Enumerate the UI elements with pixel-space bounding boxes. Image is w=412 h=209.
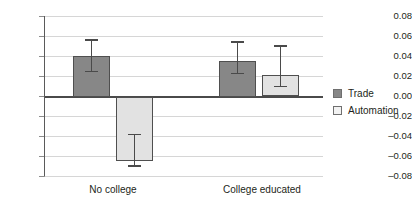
- gridline: [45, 136, 323, 137]
- y-tick-label: 0.06: [374, 31, 412, 41]
- error-bar-automation-college-educated: [262, 45, 299, 87]
- error-bar-automation-no-college: [116, 134, 153, 167]
- error-bar-stem: [237, 41, 239, 74]
- x-tick-label-college-educated: College educated: [207, 184, 317, 196]
- legend-label-automation: Automation: [348, 105, 399, 116]
- gridline: [45, 16, 323, 17]
- error-bar-cap-top: [274, 45, 287, 47]
- plot-area: [44, 16, 322, 177]
- y-tick-label: 0.02: [374, 71, 412, 81]
- error-bar-trade-college-educated: [219, 41, 256, 74]
- legend-swatch-trade-icon: [333, 89, 342, 98]
- legend-label-trade: Trade: [348, 88, 374, 99]
- error-bar-cap-bottom: [231, 73, 244, 75]
- y-tick-label: 0.08: [374, 11, 412, 21]
- error-bar-trade-no-college: [73, 39, 110, 72]
- gridline: [45, 116, 323, 117]
- y-tick-label: –0.06: [374, 151, 412, 161]
- y-tick-label: –0.08: [374, 171, 412, 181]
- error-bar-cap-top: [128, 134, 141, 136]
- error-bar-cap-bottom: [274, 86, 287, 88]
- error-bar-stem: [91, 39, 93, 72]
- legend-item-trade[interactable]: Trade: [333, 85, 399, 102]
- legend: Trade Automation: [333, 85, 399, 119]
- x-tick-label-no-college: No college: [63, 184, 163, 196]
- error-bar-stem: [280, 45, 282, 87]
- legend-item-automation[interactable]: Automation: [333, 102, 399, 119]
- gridline: [45, 176, 323, 177]
- gridline: [45, 36, 323, 37]
- error-bar-cap-bottom: [85, 71, 98, 73]
- legend-swatch-automation-icon: [333, 106, 342, 115]
- error-bar-stem: [134, 134, 136, 167]
- error-bar-cap-bottom: [128, 165, 141, 167]
- error-bar-cap-top: [85, 39, 98, 41]
- error-bar-cap-top: [231, 41, 244, 43]
- bar-chart: 0.08 0.06 0.04 0.02 0.00 –0.02 –0.04 –0.…: [0, 0, 412, 209]
- y-tick-label: 0.04: [374, 51, 412, 61]
- gridline: [45, 156, 323, 157]
- y-tick-label: –0.04: [374, 131, 412, 141]
